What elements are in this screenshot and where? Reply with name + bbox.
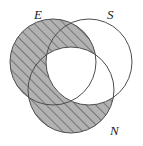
venn-diagram-canvas [0, 0, 143, 146]
set-label-S: S [107, 8, 114, 21]
set-label-E: E [34, 8, 42, 21]
set-label-N: N [110, 124, 119, 137]
venn-diagram-figure: E S N [0, 0, 143, 146]
shaded-region-E-union-N-minus-S [0, 0, 143, 146]
